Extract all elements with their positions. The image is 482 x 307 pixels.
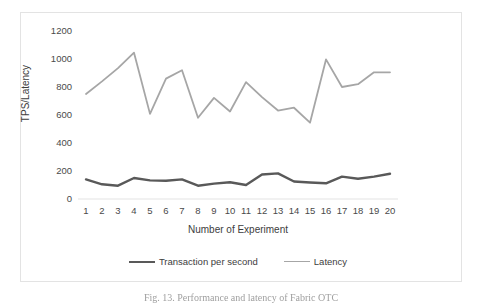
y-tick-800: 800 [38, 82, 72, 92]
x-tick-7: 7 [174, 205, 190, 219]
y-tick-1000: 1000 [38, 54, 72, 64]
legend-label-transaction-per-second: Transaction per second [159, 256, 258, 267]
x-axis-title: Number of Experiment [78, 224, 398, 235]
x-tick-11: 11 [238, 205, 254, 219]
x-tick-5: 5 [142, 205, 158, 219]
x-tick-18: 18 [350, 205, 366, 219]
x-tick-19: 19 [366, 205, 382, 219]
x-tick-6: 6 [158, 205, 174, 219]
y-tick-0: 0 [38, 194, 72, 204]
x-tick-13: 13 [270, 205, 286, 219]
x-tick-16: 16 [318, 205, 334, 219]
x-tick-10: 10 [222, 205, 238, 219]
x-tick-2: 2 [94, 205, 110, 219]
figure-caption: Fig. 13. Performance and latency of Fabr… [0, 292, 482, 303]
x-tick-20: 20 [382, 205, 398, 219]
x-tick-1: 1 [78, 205, 94, 219]
x-tick-14: 14 [286, 205, 302, 219]
x-tick-3: 3 [110, 205, 126, 219]
x-tick-12: 12 [254, 205, 270, 219]
legend-swatch-transaction-per-second [129, 261, 155, 263]
y-tick-400: 400 [38, 138, 72, 148]
x-tick-4: 4 [126, 205, 142, 219]
x-tick-8: 8 [190, 205, 206, 219]
chart-legend: Transaction per second Latency [78, 256, 398, 267]
legend-label-latency: Latency [314, 256, 347, 267]
x-tick-15: 15 [302, 205, 318, 219]
y-axis-title: TPS/Latency [20, 39, 31, 149]
y-axis-tick-labels: 1200 1000 800 600 400 200 0 [36, 0, 72, 307]
y-tick-1200: 1200 [38, 26, 72, 36]
x-tick-17: 17 [334, 205, 350, 219]
chart-frame [20, 12, 462, 282]
x-tick-9: 9 [206, 205, 222, 219]
y-tick-200: 200 [38, 166, 72, 176]
legend-item-latency[interactable]: Latency [284, 256, 347, 267]
x-axis-tick-labels: 1234567891011121314151617181920 [78, 205, 398, 219]
y-tick-600: 600 [38, 110, 72, 120]
legend-item-transaction-per-second[interactable]: Transaction per second [129, 256, 258, 267]
legend-swatch-latency [284, 261, 310, 262]
